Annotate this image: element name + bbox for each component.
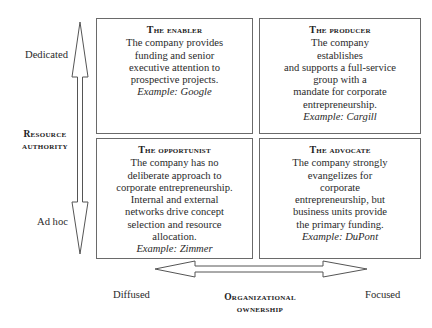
quadrant-text-line: The company [260, 37, 420, 49]
quadrant-text-line: prospective projects. [97, 74, 252, 86]
quadrant-text-line: executive attention to [97, 62, 252, 74]
quadrant-text-line: The company provides [97, 37, 252, 49]
quadrant-text-line: establishes [260, 50, 420, 62]
x-axis-title-line2: ownership [210, 303, 310, 315]
quadrant-text-line: The company has no [97, 157, 252, 169]
quadrant-text-line: entrepreneurship. [260, 99, 420, 111]
quadrant-text-line: the primary funding. [260, 219, 420, 231]
quadrant-title: The opportunist [97, 144, 252, 156]
quadrant-text-line: corporate entrepreneurship. [97, 182, 252, 194]
quadrant-text-line: Internal and external [97, 194, 252, 206]
quadrant-text-line: evangelizes for [260, 170, 420, 182]
quadrant-text-line: selection and resource [97, 219, 252, 231]
y-axis-title-line1: Resource [20, 128, 70, 140]
quadrant-text-line: business units provide [260, 206, 420, 218]
x-axis-title-line1: Organizational [210, 291, 310, 303]
quadrant-text-line: mandate for corporate [260, 86, 420, 98]
horizontal-double-arrow-icon [155, 260, 370, 280]
x-axis-left-label: Diffused [113, 289, 150, 300]
quadrant-text-line: entrepreneurship, but [260, 194, 420, 206]
y-axis-title: Resource authority [20, 128, 70, 152]
quadrant-text-line: group with a [260, 74, 420, 86]
quadrant-title: The advocate [260, 144, 420, 156]
quadrant-text-line: networks drive concept [97, 206, 252, 218]
vertical-double-arrow-icon [70, 22, 90, 257]
quadrant-text-line: and supports a full-service [260, 62, 420, 74]
quadrant-text-line: funding and senior [97, 50, 252, 62]
y-axis-bottom-label: Ad hoc [37, 216, 68, 227]
quadrant-text-line: The company strongly [260, 157, 420, 169]
quadrant-opportunist: The opportunist The company has no delib… [96, 138, 253, 259]
quadrant-producer: The producer The company establishes and… [259, 18, 421, 134]
quadrant-enabler: The enabler The company provides funding… [96, 18, 253, 134]
quadrant-title: The producer [260, 24, 420, 36]
x-axis-title: Organizational ownership [210, 291, 310, 315]
quadrant-example: Example: DuPont [260, 231, 420, 243]
y-axis-title-line2: authority [20, 140, 70, 152]
quadrant-title: The enabler [97, 24, 252, 36]
quadrant-text-line: deliberate approach to [97, 170, 252, 182]
y-axis-top-label: Dedicated [25, 49, 68, 60]
quadrant-example: Example: Cargill [260, 111, 420, 123]
quadrant-text-line: corporate [260, 182, 420, 194]
quadrant-text-line: allocation. [97, 231, 252, 243]
quadrant-example: Example: Zimmer [97, 243, 252, 255]
quadrant-advocate: The advocate The company strongly evange… [259, 138, 421, 259]
quadrant-example: Example: Google [97, 86, 252, 98]
x-axis-right-label: Focused [365, 289, 400, 300]
